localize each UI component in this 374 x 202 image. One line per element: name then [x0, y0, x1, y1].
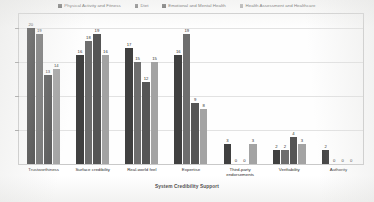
- bar-slot: 19: [93, 14, 101, 164]
- bar[interactable]: [125, 48, 133, 164]
- bar-value-label: 0: [333, 159, 335, 163]
- bar[interactable]: [273, 150, 281, 164]
- legend-swatch-icon: [162, 4, 166, 8]
- bar-value-label: 3: [301, 139, 303, 143]
- bar-slot: 18: [85, 14, 93, 164]
- bar-group: 2243: [265, 14, 314, 164]
- x-axis-title: System Credibility Support: [0, 184, 374, 189]
- bar[interactable]: [290, 137, 298, 164]
- bar[interactable]: [27, 28, 35, 164]
- bar-group: 16181916: [68, 14, 117, 164]
- bar-slot: 15: [134, 14, 142, 164]
- bar-group: 17151215: [117, 14, 166, 164]
- bar[interactable]: [76, 55, 84, 164]
- bar-slot: 4: [290, 14, 298, 164]
- bar-group: 161998: [166, 14, 215, 164]
- legend-item-label: Emotional and Mental Health: [168, 4, 226, 8]
- bar[interactable]: [298, 144, 306, 164]
- bar[interactable]: [174, 55, 182, 164]
- bar-slot: 17: [125, 14, 133, 164]
- bar-slot: 19: [36, 14, 44, 164]
- bar-chart-figure: Physical Activity and FitnessDietEmotion…: [0, 0, 374, 202]
- x-axis-category-label: Verifiability: [265, 167, 314, 177]
- bar-value-label: 19: [95, 29, 100, 33]
- bar-value-label: 17: [127, 43, 132, 47]
- x-axis-category-label: Trustworthiness: [19, 167, 68, 177]
- bar-value-label: 16: [176, 50, 181, 54]
- bar[interactable]: [249, 144, 257, 164]
- bar[interactable]: [322, 150, 330, 164]
- bar[interactable]: [200, 109, 208, 164]
- bar-group: 20191314: [19, 14, 68, 164]
- bar-value-label: 2: [324, 145, 326, 149]
- bar-slot: 12: [142, 14, 150, 164]
- bar[interactable]: [191, 103, 199, 164]
- bar-value-label: 0: [243, 159, 245, 163]
- bar-slot: 0: [241, 14, 249, 164]
- bar-value-label: 3: [252, 139, 254, 143]
- bar-value-label: 15: [135, 57, 140, 61]
- chart-legend: Physical Activity and FitnessDietEmotion…: [0, 4, 374, 8]
- bar-value-label: 14: [54, 64, 59, 68]
- bar-value-label: 15: [152, 57, 157, 61]
- bar[interactable]: [134, 62, 142, 164]
- bar-value-label: 3: [226, 139, 228, 143]
- bar[interactable]: [224, 144, 232, 164]
- legend-swatch-icon: [135, 4, 139, 8]
- bar[interactable]: [281, 150, 289, 164]
- bar-slot: 16: [174, 14, 182, 164]
- x-axis-category-label: Real-world feel: [117, 167, 166, 177]
- bar[interactable]: [53, 69, 61, 164]
- bar-value-label: 0: [341, 159, 343, 163]
- bars-plot-area: 2019131416181916171512151619983003224320…: [19, 14, 363, 164]
- legend-item-1[interactable]: Physical Activity and Fitness: [58, 4, 120, 8]
- bar-value-label: 0: [235, 159, 237, 163]
- bar-slot: 16: [102, 14, 110, 164]
- bar-slot: 13: [44, 14, 52, 164]
- legend-item-3[interactable]: Emotional and Mental Health: [162, 4, 225, 8]
- x-axis-category-label: Authority: [314, 167, 363, 177]
- bar-slot: 0: [339, 14, 347, 164]
- legend-item-2[interactable]: Diet: [135, 4, 149, 8]
- bar-value-label: 16: [103, 50, 108, 54]
- bar[interactable]: [85, 41, 93, 164]
- bar-slot: 3: [298, 14, 306, 164]
- bar[interactable]: [183, 34, 191, 164]
- bar-value-label: 20: [28, 23, 33, 27]
- bar-slot: 16: [76, 14, 84, 164]
- bar[interactable]: [151, 62, 159, 164]
- bar-slot: 15: [151, 14, 159, 164]
- bar-value-label: 0: [350, 159, 352, 163]
- legend-item-4[interactable]: Health Assessment and Healthcare: [240, 4, 316, 8]
- bar-value-label: 9: [194, 98, 196, 102]
- bar-slot: 19: [183, 14, 191, 164]
- bar-slot: 2: [273, 14, 281, 164]
- x-axis-category-label: Expertise: [166, 167, 215, 177]
- bar[interactable]: [44, 75, 52, 164]
- bar-slot: 0: [232, 14, 240, 164]
- bar-value-label: 12: [144, 77, 149, 81]
- bar-value-label: 19: [184, 29, 189, 33]
- bar-value-label: 4: [292, 132, 294, 136]
- bar-slot: 2: [281, 14, 289, 164]
- bar-slot: 0: [330, 14, 338, 164]
- bar-value-label: 13: [45, 70, 50, 74]
- legend-item-label: Diet: [140, 4, 148, 8]
- legend-swatch-icon: [240, 4, 244, 8]
- bar[interactable]: [142, 82, 150, 164]
- bar-slot: 3: [249, 14, 257, 164]
- bar-slot: 8: [200, 14, 208, 164]
- bar-slot: 20: [27, 14, 35, 164]
- bar-value-label: 16: [78, 50, 83, 54]
- bar[interactable]: [93, 34, 101, 164]
- bar-slot: 14: [53, 14, 61, 164]
- x-axis-category-label: Surface credibility: [68, 167, 117, 177]
- bar-slot: 0: [347, 14, 355, 164]
- bar-slot: 9: [191, 14, 199, 164]
- bar[interactable]: [36, 34, 44, 164]
- legend-swatch-icon: [58, 4, 62, 8]
- bar[interactable]: [102, 55, 110, 164]
- bar-value-label: 8: [203, 104, 205, 108]
- x-axis-category-label: Third-party endorsements: [216, 167, 265, 177]
- legend-item-label: Physical Activity and Fitness: [64, 4, 120, 8]
